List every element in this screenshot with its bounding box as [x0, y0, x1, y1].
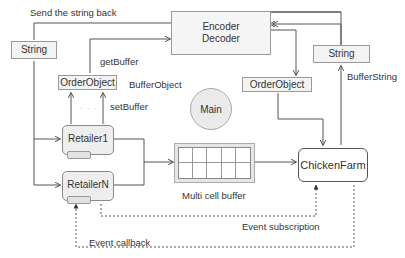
encoder-return-arrow [0, 0, 405, 258]
